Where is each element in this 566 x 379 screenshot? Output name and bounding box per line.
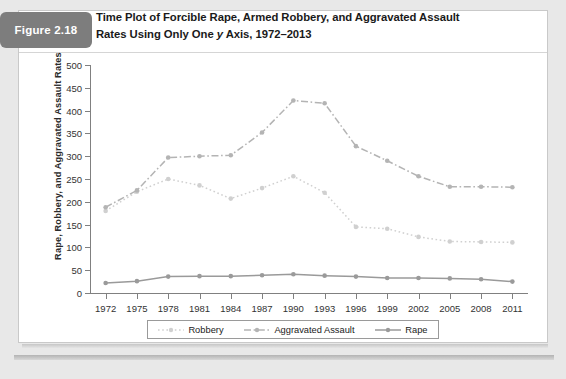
y-tick-label: 100 [52, 242, 82, 253]
x-tick-mark [481, 294, 482, 299]
x-tick-label: 1981 [189, 303, 210, 314]
data-point [228, 196, 233, 201]
x-tick-mark [293, 294, 294, 299]
y-tick-label: 400 [52, 105, 82, 116]
legend-item-aggravated-assault: Aggravated Assault [244, 325, 354, 335]
x-tick-mark [419, 294, 420, 299]
data-point [510, 279, 515, 284]
x-tick-mark [106, 294, 107, 299]
legend-swatch-dash-dot [244, 325, 270, 335]
data-point [166, 155, 171, 160]
figure-title-line-1: Time Plot of Forcible Rape, Armed Robber… [96, 9, 526, 26]
data-point [291, 98, 296, 103]
legend-swatch-solid [375, 325, 401, 335]
y-tick-label: 0 [52, 288, 82, 299]
x-tick-label: 1990 [283, 303, 304, 314]
y-tick-label: 500 [52, 60, 82, 71]
data-point [322, 273, 327, 278]
data-point [416, 235, 421, 240]
legend-label: Rape [405, 325, 427, 335]
x-tick-mark [262, 294, 263, 299]
figure-title-line-2: Rates Using Only One y Axis, 1972–2013 [96, 26, 526, 43]
x-tick-mark [137, 294, 138, 299]
data-point [197, 274, 202, 279]
x-tick-mark [450, 294, 451, 299]
x-tick-label: 1984 [220, 303, 241, 314]
series-rape [103, 272, 514, 285]
page-shadow-upper [22, 344, 548, 348]
data-point [135, 188, 140, 193]
data-point [416, 276, 421, 281]
data-point [103, 281, 108, 286]
page-shadow-lower [14, 355, 554, 360]
data-point [385, 158, 390, 163]
data-point [260, 273, 265, 278]
x-tick-mark [200, 294, 201, 299]
x-tick-label: 1996 [345, 303, 366, 314]
y-tick-label: 50 [52, 265, 82, 276]
figure-title-line-2-part-b: Axis, 1972–2013 [223, 28, 312, 40]
data-point [447, 184, 452, 189]
data-point [197, 183, 202, 188]
series-robbery [103, 174, 514, 245]
legend-item-rape: Rape [375, 325, 427, 335]
x-tick-label: 1975 [126, 303, 147, 314]
data-point [510, 185, 515, 190]
data-point [135, 279, 140, 284]
y-tick-label: 350 [52, 128, 82, 139]
data-point [291, 174, 296, 179]
chart-legend: RobberyAggravated AssaultRape [147, 320, 439, 339]
data-point [166, 177, 171, 182]
data-point [447, 239, 452, 244]
data-point [479, 240, 484, 245]
figure-title: Time Plot of Forcible Rape, Armed Robber… [96, 9, 526, 42]
data-point [385, 226, 390, 231]
x-tick-mark [356, 294, 357, 299]
legend-swatch-dotted [158, 325, 184, 335]
data-point [510, 240, 515, 245]
data-point [479, 277, 484, 282]
x-tick-mark [325, 294, 326, 299]
plot-area: 050100150200250300350400450500 197219751… [90, 65, 528, 293]
x-tick-label: 1972 [95, 303, 116, 314]
data-point [197, 154, 202, 159]
x-tick-label: 1993 [314, 303, 335, 314]
x-tick-label: 2008 [470, 303, 491, 314]
data-point [322, 101, 327, 106]
legend-label: Robbery [188, 325, 223, 335]
x-tick-label: 1978 [158, 303, 179, 314]
x-tick-label: 2002 [408, 303, 429, 314]
x-tick-mark [512, 294, 513, 299]
y-tick-label: 200 [52, 196, 82, 207]
figure-page: Figure 2.18 Time Plot of Forcible Rape, … [0, 0, 566, 379]
x-tick-label: 1987 [251, 303, 272, 314]
x-tick-mark [231, 294, 232, 299]
data-point [322, 190, 327, 195]
data-point [416, 174, 421, 179]
legend-label: Aggravated Assault [274, 325, 354, 335]
data-point [479, 184, 484, 189]
data-point [260, 186, 265, 191]
data-point [166, 274, 171, 279]
data-point [103, 205, 108, 210]
y-tick-label: 450 [52, 82, 82, 93]
data-point [228, 153, 233, 158]
data-point [354, 225, 359, 230]
figure-title-line-2-part-a: Rates Using Only One [96, 28, 217, 40]
data-point [260, 130, 265, 135]
data-point [228, 274, 233, 279]
data-point [354, 274, 359, 279]
x-tick-label: 2005 [439, 303, 460, 314]
x-tick-mark [387, 294, 388, 299]
y-tick-label: 250 [52, 174, 82, 185]
data-point [354, 144, 359, 149]
x-tick-mark [168, 294, 169, 299]
chart-container: Rape, Robbery, and Aggravated Assault Ra… [19, 53, 547, 342]
data-point [447, 276, 452, 281]
figure-number-badge: Figure 2.18 [0, 12, 92, 48]
y-tick-label: 300 [52, 151, 82, 162]
x-tick-label: 2011 [502, 303, 522, 314]
series-aggravated-assault [103, 98, 514, 209]
y-tick-label: 150 [52, 219, 82, 230]
legend-item-robbery: Robbery [158, 325, 223, 335]
